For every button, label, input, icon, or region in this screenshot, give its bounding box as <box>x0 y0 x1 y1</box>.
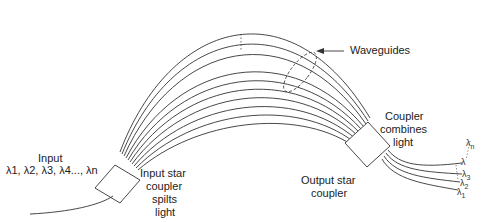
combines-label-3: light <box>393 136 413 148</box>
waveguide-group-ellipse <box>278 48 322 97</box>
waveguides-label: Waveguides <box>350 44 410 56</box>
waveguide-9 <box>136 115 354 168</box>
input-coupler-label-3: spilts <box>152 193 177 205</box>
output-lambda-1: λ1 <box>457 187 465 199</box>
input-coupler-label-1: Input star <box>140 167 186 179</box>
input-wavelengths: λ1, λ2, λ3, λ4..., λn <box>6 164 98 176</box>
input-coupler-label-4: light <box>155 206 175 218</box>
combines-label-2: combines <box>380 123 427 135</box>
output-coupler-label-1: Output star <box>301 174 355 186</box>
input-fiber <box>30 196 113 214</box>
output-lambda-n: λn <box>466 138 474 150</box>
waveguide-2 <box>122 44 368 154</box>
waveguide-8 <box>134 107 356 166</box>
input-coupler-label-2: coupler <box>146 180 182 192</box>
output-fibers <box>382 150 462 190</box>
output-ellipsis <box>456 165 458 180</box>
output-coupler-label-2: coupler <box>311 187 347 199</box>
waveguide-10 <box>138 123 352 170</box>
arrow-head-icon <box>316 48 324 54</box>
waveguide-4 <box>126 72 364 158</box>
combines-label-1: Coupler <box>385 110 424 122</box>
output-lambda: λ <box>461 157 466 169</box>
input-star-coupler <box>95 165 140 203</box>
input-title: Input <box>38 152 62 164</box>
